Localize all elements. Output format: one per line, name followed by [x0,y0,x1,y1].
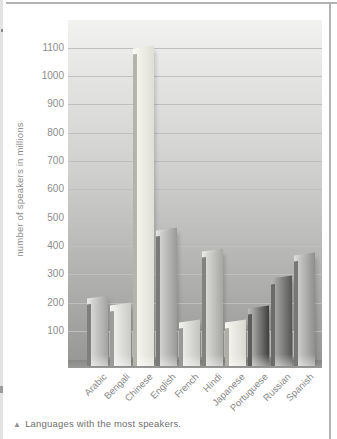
y-tick-label-700: 700 [20,155,64,167]
gridline-400 [68,246,322,247]
gridline-800 [68,133,322,134]
gridline-900 [68,104,322,105]
y-tick-label-200: 200 [20,297,64,309]
y-tick-label-1000: 1000 [20,70,64,82]
bar-front-face [183,324,200,366]
gridline-300 [68,274,322,275]
page-edge-artifact [1,29,3,32]
y-tick-label-900: 900 [20,98,64,110]
bar-portuguese [248,310,269,366]
bar-chinese [133,50,154,366]
caption-text: Languages with the most speakers. [25,418,181,429]
bar-bengali [110,307,131,366]
bar-front-face [275,280,292,366]
bar-front-face [252,310,269,366]
gridline-1100 [68,48,322,49]
bar-japanese [225,324,246,366]
y-tick-label-500: 500 [20,212,64,224]
figure-border-right [329,2,331,439]
bar-english [156,232,177,366]
bar-front-face [137,50,154,366]
bar-front-face [298,257,315,366]
bar-front-face [114,307,131,366]
bar-russian [271,280,292,366]
figure-caption: ▲Languages with the most speakers. [13,418,181,429]
bar-spanish [294,257,315,366]
gridline-700 [68,161,322,162]
y-axis-title: number of speakers in millions [13,95,26,285]
figure-border-top [6,2,337,4]
bar-front-face [91,300,108,366]
bar-front-face [160,232,177,366]
book-figure-page: 11001000900800700600500400300200100 Arab… [0,0,337,439]
y-tick-label-300: 300 [20,268,64,280]
page-edge-artifact [0,386,3,393]
y-tick-label-100: 100 [20,325,64,337]
gridline-500 [68,218,322,219]
y-tick-label-400: 400 [20,240,64,252]
page-edge [0,0,3,439]
bar-hindi [202,253,223,366]
y-tick-label-800: 800 [20,127,64,139]
y-tick-label-1100: 1100 [20,42,64,54]
bar-arabic [87,300,108,366]
bar-french [179,324,200,366]
gridline-600 [68,189,322,190]
y-tick-label-600: 600 [20,183,64,195]
gridline-1000 [68,76,322,77]
bar-front-face [206,253,223,366]
caption-triangle-icon: ▲ [13,420,21,429]
bar-front-face [229,324,246,366]
